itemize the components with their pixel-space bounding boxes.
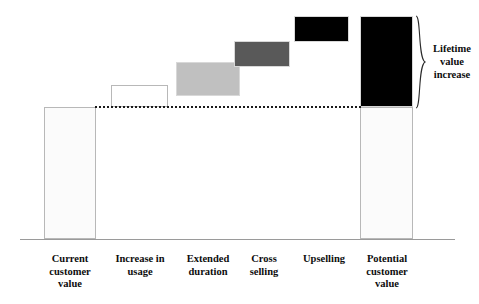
category-label-upselling: Upselling [292, 253, 356, 266]
category-label-increase-in-usage: Increase in usage [104, 253, 176, 278]
label-line: Increase in [104, 253, 176, 266]
label-line: Current [32, 253, 108, 266]
bar-increase-in-usage [111, 85, 168, 107]
annotation-line-3: increase [425, 68, 479, 81]
category-label-potential-customer-value: Potential customer value [350, 253, 424, 291]
bar-potential-customer-value-base [360, 107, 413, 239]
label-line: Upselling [292, 253, 356, 266]
label-line: customer [32, 266, 108, 279]
lifetime-value-increase-label: Lifetime value increase [425, 42, 479, 81]
bar-extended-duration [176, 62, 240, 96]
annotation-line-2: value [425, 55, 479, 68]
bar-current-customer-value [44, 107, 96, 239]
connector-dotted-line [95, 106, 361, 108]
waterfall-chart: Lifetime value increase Current customer… [0, 0, 479, 304]
label-line: Cross [234, 253, 294, 266]
bar-upselling [294, 16, 349, 42]
bar-potential-customer-value-increase [360, 16, 413, 107]
category-label-current-customer-value: Current customer value [32, 253, 108, 291]
bar-cross-selling [234, 41, 290, 67]
label-line: value [32, 278, 108, 291]
label-line: usage [104, 266, 176, 279]
category-label-cross-selling: Cross selling [234, 253, 294, 278]
label-line: selling [234, 266, 294, 279]
label-line: value [350, 278, 424, 291]
label-line: customer [350, 266, 424, 279]
label-line: Potential [350, 253, 424, 266]
annotation-line-1: Lifetime [425, 42, 479, 55]
x-axis-baseline [20, 239, 455, 240]
